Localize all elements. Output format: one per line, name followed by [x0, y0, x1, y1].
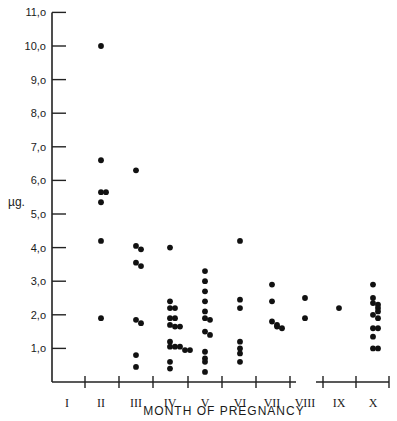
- data-point: [167, 305, 173, 311]
- data-point: [138, 263, 144, 269]
- data-point: [98, 43, 104, 49]
- data-point: [138, 320, 144, 326]
- data-point: [279, 325, 285, 331]
- data-point: [207, 332, 213, 338]
- data-point: [370, 295, 376, 301]
- data-point: [167, 366, 173, 372]
- data-point: [202, 359, 208, 365]
- data-point: [269, 319, 275, 325]
- data-point: [302, 315, 308, 321]
- y-tick-label: 9,o: [31, 74, 46, 86]
- x-tick-label: I: [65, 396, 69, 410]
- data-point: [370, 346, 376, 352]
- data-point: [98, 199, 104, 205]
- data-point: [187, 347, 193, 353]
- data-point: [98, 189, 104, 195]
- data-point: [370, 282, 376, 288]
- data-point: [103, 189, 109, 195]
- data-point: [237, 238, 243, 244]
- data-point: [202, 298, 208, 304]
- data-point: [167, 339, 173, 345]
- data-point: [370, 300, 376, 306]
- y-tick-label: 5,o: [31, 208, 46, 220]
- data-point: [172, 324, 178, 330]
- y-tick-label: 3,o: [31, 275, 46, 287]
- data-point: [207, 317, 213, 323]
- data-point: [167, 322, 173, 328]
- data-point: [133, 317, 139, 323]
- data-point: [202, 278, 208, 284]
- data-point: [370, 334, 376, 340]
- data-point: [133, 260, 139, 266]
- data-point: [133, 167, 139, 173]
- data-point: [269, 282, 275, 288]
- data-point: [375, 309, 381, 315]
- data-point: [237, 346, 243, 352]
- x-tick-label: IX: [333, 396, 346, 410]
- data-point: [167, 245, 173, 251]
- data-point: [167, 359, 173, 365]
- data-point: [98, 315, 104, 321]
- x-tick-label: III: [130, 396, 142, 410]
- y-tick-label: 4,o: [31, 242, 46, 254]
- y-tick-label: 8,o: [31, 107, 46, 119]
- data-point: [202, 268, 208, 274]
- data-point: [237, 297, 243, 303]
- data-point: [98, 238, 104, 244]
- data-point: [133, 364, 139, 370]
- data-point: [202, 315, 208, 321]
- data-point: [177, 344, 183, 350]
- y-axis-label: µg.: [8, 195, 25, 209]
- data-point: [237, 351, 243, 357]
- data-point: [202, 329, 208, 335]
- data-point: [237, 339, 243, 345]
- data-point: [269, 298, 275, 304]
- scatter-chart: 1,o2,o3,o4,o5,o6,o7,o8,o9,o10,o11,o IIII…: [0, 0, 397, 421]
- x-tick-label: X: [369, 396, 378, 410]
- data-point: [138, 246, 144, 252]
- data-point: [172, 315, 178, 321]
- data-point: [237, 359, 243, 365]
- data-point: [375, 325, 381, 331]
- data-point: [167, 344, 173, 350]
- data-point: [172, 344, 178, 350]
- y-axis: 1,o2,o3,o4,o5,o6,o7,o8,o9,o10,o11,o: [25, 6, 66, 382]
- data-point: [182, 347, 188, 353]
- data-point: [302, 295, 308, 301]
- data-point: [167, 315, 173, 321]
- y-tick-label: 1,o: [31, 342, 46, 354]
- data-point: [202, 309, 208, 315]
- data-point: [177, 324, 183, 330]
- y-tick-label: 2,o: [31, 309, 46, 321]
- data-point: [202, 349, 208, 355]
- data-point: [375, 346, 381, 352]
- data-point: [336, 305, 342, 311]
- data-point: [370, 325, 376, 331]
- data-point: [167, 298, 173, 304]
- data-points: [98, 43, 381, 375]
- data-point: [375, 315, 381, 321]
- data-point: [237, 305, 243, 311]
- data-point: [202, 369, 208, 375]
- data-point: [274, 324, 280, 330]
- data-point: [133, 352, 139, 358]
- data-point: [202, 288, 208, 294]
- x-tick-label: II: [97, 396, 105, 410]
- y-tick-label: 6,o: [31, 174, 46, 186]
- y-tick-label: 7,o: [31, 141, 46, 153]
- y-tick-label: 11,o: [25, 6, 46, 18]
- data-point: [370, 312, 376, 318]
- x-axis-title: MONTH OF PREGNANCY: [143, 404, 304, 418]
- data-point: [133, 243, 139, 249]
- y-tick-label: 10,o: [25, 40, 46, 52]
- data-point: [98, 157, 104, 163]
- data-point: [172, 305, 178, 311]
